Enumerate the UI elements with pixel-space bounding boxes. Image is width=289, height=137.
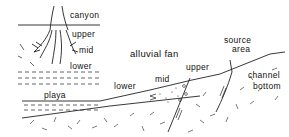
label-channel-bottom-2: bottom (253, 82, 281, 91)
label-fan-lower: lower (114, 82, 136, 91)
label-canyon: canyon (70, 11, 99, 20)
alluvial-fan-diagram: canyon upper mid lower playa alluvial fa… (0, 0, 289, 137)
distributary-channels (34, 30, 76, 64)
label-inset-lower: lower (70, 62, 92, 71)
label-inset-mid: mid (79, 46, 94, 55)
label-source-area-2: area (232, 45, 250, 54)
diagram-drawing (0, 0, 289, 137)
label-fan-upper: upper (186, 63, 209, 72)
label-fan-mid: mid (155, 75, 170, 84)
label-alluvial-fan: alluvial fan (130, 49, 179, 59)
fault-range-front (216, 72, 232, 112)
label-channel-bottom-1: channel (248, 71, 280, 80)
canyon-walls (50, 6, 68, 30)
fault-mid (168, 78, 190, 132)
label-playa: playa (44, 91, 66, 100)
label-inset-upper: upper (72, 30, 95, 39)
